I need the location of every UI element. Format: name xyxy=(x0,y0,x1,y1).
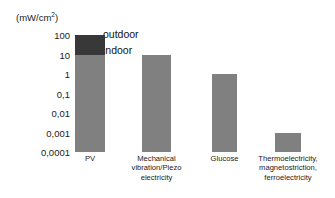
category-label-line: vibration/Piezo xyxy=(112,163,202,172)
y-tick-label-4: 0,01 xyxy=(0,108,70,119)
glucose-indoor-segment[interactable] xyxy=(212,74,237,152)
bar-thermoelectricity[interactable] xyxy=(275,133,301,153)
bar-group-mechanical-vibration: Mechanicalvibration/Piezoelectricity xyxy=(142,0,171,198)
category-label-line: ferroelectricity xyxy=(243,173,333,182)
y-tick-label-5: 0,001 xyxy=(0,127,70,138)
pv-indoor-segment[interactable] xyxy=(75,55,105,153)
bar-mechanical-vibration[interactable] xyxy=(142,55,171,153)
plot-area: outdoor indoor PVMechanicalvibration/Pie… xyxy=(70,0,335,198)
category-label-line: electricity xyxy=(112,173,202,182)
bar-pv[interactable] xyxy=(75,35,105,152)
legend-label-outdoor: outdoor xyxy=(103,28,139,40)
y-tick-label-0: 100 xyxy=(0,30,70,41)
thermoelectricity-indoor-segment[interactable] xyxy=(275,133,301,153)
legend-label-indoor: indoor xyxy=(103,44,132,56)
category-label-thermoelectricity: Thermoelectricity,magnetostriction,ferro… xyxy=(243,154,333,182)
category-label-line: magnetostriction, xyxy=(243,163,333,172)
category-label-line: Thermoelectricity, xyxy=(243,154,333,163)
bar-glucose[interactable] xyxy=(212,74,237,152)
bar-group-glucose: Glucose xyxy=(212,0,237,198)
bar-group-thermoelectricity: Thermoelectricity,magnetostriction,ferro… xyxy=(275,0,301,198)
chart-figure: (mW/cm2) 1001010,10,010,0010,0001 outdoo… xyxy=(0,0,335,198)
y-tick-label-2: 1 xyxy=(0,69,70,80)
mechanical-vibration-indoor-segment[interactable] xyxy=(142,55,171,153)
y-axis-tick-labels: 1001010,10,010,0010,0001 xyxy=(0,0,70,198)
pv-outdoor-segment[interactable] xyxy=(75,35,105,55)
bar-group-pv: PV xyxy=(75,0,105,198)
y-tick-label-3: 0,1 xyxy=(0,88,70,99)
y-tick-label-1: 10 xyxy=(0,49,70,60)
